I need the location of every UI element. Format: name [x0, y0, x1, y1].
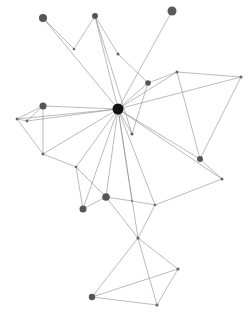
graph-node: [130, 132, 133, 135]
graph-node: [117, 53, 120, 56]
graph-node: [176, 71, 179, 74]
graph-node: [80, 206, 87, 213]
graph-node: [240, 76, 243, 79]
graph-node: [42, 153, 45, 156]
hub-node: [113, 104, 124, 115]
graph-node: [136, 236, 139, 239]
graph-node: [197, 156, 203, 162]
graph-node: [26, 120, 29, 123]
graph-node: [39, 14, 47, 22]
network-graph: [0, 0, 250, 315]
graph-node: [154, 204, 157, 207]
graph-node: [73, 48, 76, 51]
graph-background: [0, 0, 250, 315]
graph-node: [168, 7, 177, 16]
graph-node: [92, 13, 98, 19]
graph-node: [89, 294, 95, 300]
graph-node: [176, 267, 179, 270]
graph-node: [75, 166, 78, 169]
graph-node: [16, 118, 19, 121]
graph-node: [40, 103, 47, 110]
graph-node: [155, 303, 158, 306]
graph-node: [102, 193, 110, 201]
graph-node: [131, 200, 133, 202]
graph-node: [145, 80, 151, 86]
graph-node: [221, 178, 224, 181]
